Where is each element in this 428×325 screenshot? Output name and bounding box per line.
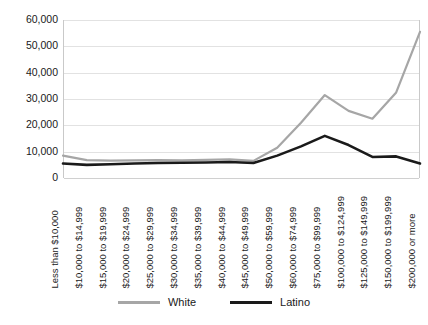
x-axis-tick-label: $200,000 or more <box>407 213 417 288</box>
x-axis-tick-label: $50,000 to $59,999 <box>264 206 274 288</box>
x-axis-tick-label: $60,000 to $74,999 <box>288 206 298 288</box>
y-axis-tick-label: 60,000 <box>0 14 58 25</box>
line-chart: 010,00020,00030,00040,00050,00060,000 Le… <box>0 0 428 325</box>
series-line-white <box>63 32 420 161</box>
x-axis-tick-label: $75,000 to $99,999 <box>311 206 321 288</box>
legend-swatch-icon <box>118 301 160 304</box>
x-axis-tick-label: $150,000 to $199,999 <box>383 196 393 288</box>
chart-legend: WhiteLatino <box>0 296 428 308</box>
gridline <box>64 178 419 179</box>
y-axis-tick-label: 0 <box>0 172 58 183</box>
legend-label: White <box>168 296 196 308</box>
x-axis-tick-label: $25,000 to $29,999 <box>145 206 155 288</box>
series-layer <box>63 20 420 178</box>
y-axis-tick-label: 50,000 <box>0 40 58 51</box>
x-axis-tick-label: $20,000 to $24,999 <box>121 206 131 288</box>
legend-item-latino[interactable]: Latino <box>230 296 310 308</box>
x-axis-tick-label: $10,000 to $14,999 <box>73 206 83 288</box>
legend-swatch-icon <box>230 301 272 304</box>
x-axis-tick-label: $45,000 to $49,999 <box>240 206 250 288</box>
x-axis-tick-label: $35,000 to $39,999 <box>192 206 202 288</box>
x-axis-labels: Less than $10,000$10,000 to $14,999$15,0… <box>63 180 420 288</box>
y-axis-tick-label: 30,000 <box>0 93 58 104</box>
x-axis-tick-label: $15,000 to $19,999 <box>97 206 107 288</box>
y-axis-tick-label: 40,000 <box>0 67 58 78</box>
legend-item-white[interactable]: White <box>118 296 196 308</box>
y-axis-tick-label: 20,000 <box>0 119 58 130</box>
x-axis-tick-label: $40,000 to $44,999 <box>216 206 226 288</box>
x-axis-tick-label: $100,000 to $124,999 <box>335 196 345 288</box>
legend-label: Latino <box>280 296 310 308</box>
x-axis-tick-label: Less than $10,000 <box>50 210 60 288</box>
y-axis-tick-label: 10,000 <box>0 146 58 157</box>
x-axis-tick-label: $30,000 to $34,999 <box>169 206 179 288</box>
x-axis-tick-label: $125,000 to $149,999 <box>359 196 369 288</box>
